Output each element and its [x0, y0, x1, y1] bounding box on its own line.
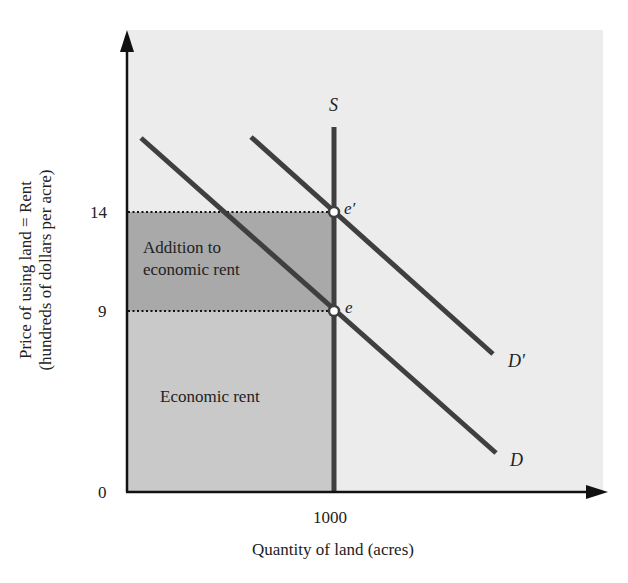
point-e-label: e: [345, 298, 353, 318]
chart-canvas: [0, 0, 628, 583]
point-e-prime: [329, 207, 339, 217]
y-tick-9: 9: [98, 302, 107, 322]
point-e-prime-label: e′: [344, 199, 355, 219]
demand-d-label: D: [510, 450, 523, 471]
demand-d-prime-label: D′: [508, 351, 525, 372]
y-axis-title: Price of using land = Rent (hundreds of …: [16, 70, 56, 470]
region-addition-label-line2: economic rent: [143, 259, 240, 281]
x-axis-title: Quantity of land (acres): [252, 540, 414, 560]
x-tick-1000: 1000: [313, 508, 347, 528]
y-tick-0: 0: [98, 483, 107, 503]
region-addition-label: Addition to economic rent: [143, 237, 240, 281]
region-economic-rent-label: Economic rent: [160, 387, 260, 407]
region-addition-label-line1: Addition to: [143, 237, 240, 259]
supply-label: S: [329, 95, 338, 116]
y-axis-title-line2: (hundreds of dollars per acre): [36, 70, 56, 470]
y-axis-title-line1: Price of using land = Rent: [16, 70, 36, 470]
y-tick-14: 14: [90, 203, 107, 223]
point-e: [329, 306, 339, 316]
